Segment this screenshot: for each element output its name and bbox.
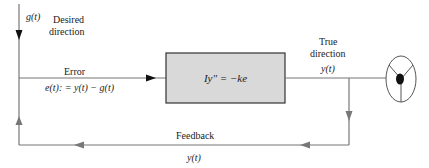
input-signal-label: g(t) [26,11,40,22]
feedback-left-arrow-icon-2 [74,142,84,149]
error-arrow-icon [146,75,156,82]
output-signal-label: y(t) [321,63,335,74]
true-label-2: direction [310,48,346,59]
feedback-up-arrow-icon [16,116,23,125]
error-equation: e(t): = y(t) − g(t) [45,82,114,93]
desired-label-2: direction [49,26,85,37]
error-label: Error [64,66,85,77]
branch-down-arrow-icon [346,111,353,121]
plant-equation: Iy″ = −ke [166,53,285,103]
input-arrow-icon [16,30,23,40]
feedback-left-arrow-icon-1 [300,142,310,149]
feedback-signal-label: y(t) [187,152,201,163]
feedback-label: Feedback [176,130,214,141]
steering-wheel-icon [386,56,416,102]
desired-label-1: Desired [53,14,84,25]
true-label-1: True [319,36,338,47]
